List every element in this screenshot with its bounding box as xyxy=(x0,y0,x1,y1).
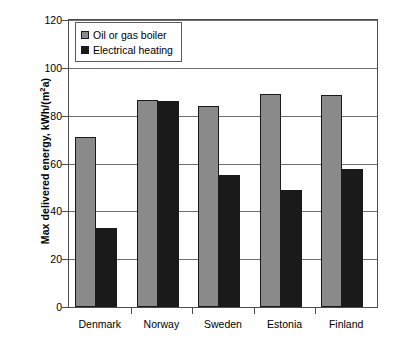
y-tick-label: 0 xyxy=(22,301,62,313)
bar-chart: Max delivered energy, kWh/(m2a) 02040608… xyxy=(0,0,396,350)
y-tick-label: 40 xyxy=(22,205,62,217)
bar xyxy=(342,169,363,307)
bar xyxy=(96,228,117,307)
y-tick-mark xyxy=(62,20,68,21)
y-tick-mark xyxy=(62,116,68,117)
y-axis-title-suffix: a) xyxy=(39,78,51,88)
legend-item: Electrical heating xyxy=(81,42,173,57)
bar-group xyxy=(315,20,377,307)
bar xyxy=(158,101,179,307)
bar xyxy=(198,106,219,307)
y-tick-mark xyxy=(62,164,68,165)
bar xyxy=(281,190,302,307)
bar xyxy=(321,95,342,307)
x-tick-label: Finland xyxy=(306,318,386,330)
y-tick-mark xyxy=(62,68,68,69)
bar xyxy=(75,137,96,307)
bar-group xyxy=(192,20,254,307)
bar-group xyxy=(131,20,193,307)
legend-swatch-icon xyxy=(81,31,89,39)
bar xyxy=(219,175,240,307)
bar xyxy=(260,94,281,307)
legend: Oil or gas boiler Electrical heating xyxy=(75,22,182,62)
y-tick-label: 20 xyxy=(22,253,62,265)
y-axis-title-exponent: 2 xyxy=(38,87,47,91)
y-tick-label: 120 xyxy=(22,14,62,26)
y-tick-mark xyxy=(62,259,68,260)
x-tick-mark xyxy=(131,308,132,314)
bar xyxy=(137,100,158,307)
bar-group xyxy=(254,20,316,307)
y-tick-mark xyxy=(62,211,68,212)
y-tick-label: 60 xyxy=(22,158,62,170)
legend-item-label: Electrical heating xyxy=(93,44,173,56)
y-tick-label: 100 xyxy=(22,62,62,74)
x-tick-mark xyxy=(254,308,255,314)
legend-item: Oil or gas boiler xyxy=(81,27,173,42)
legend-item-label: Oil or gas boiler xyxy=(93,29,167,41)
y-tick-label: 80 xyxy=(22,110,62,122)
y-tick-mark xyxy=(62,307,68,308)
bar-group xyxy=(69,20,131,307)
legend-swatch-icon xyxy=(81,46,89,54)
x-tick-mark xyxy=(192,308,193,314)
x-tick-mark xyxy=(315,308,316,314)
bars-layer xyxy=(69,20,377,307)
